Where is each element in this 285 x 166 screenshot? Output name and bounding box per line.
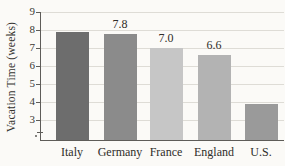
axis-break-dot: [35, 135, 37, 137]
bar-italy: [56, 32, 89, 140]
y-tick-5: [36, 84, 41, 85]
y-tick-3: [36, 120, 41, 121]
bar-value-label-germany: 7.8: [100, 17, 140, 32]
bar-france: [150, 48, 183, 140]
y-tick-label-8: 8: [13, 23, 35, 35]
bar-us: [245, 104, 278, 140]
y-tick-label-7: 7: [13, 41, 35, 53]
y-tick-label-6: 6: [13, 59, 35, 71]
bar-england: [198, 55, 231, 140]
category-label-us: U.S.: [226, 145, 285, 160]
y-tick-label-3: 3: [13, 113, 35, 125]
bar-value-label-england: 6.6: [194, 38, 234, 53]
y-tick-4: [36, 102, 41, 103]
y-tick-9: [36, 12, 41, 13]
y-tick-8: [36, 30, 41, 31]
y-axis-line: [40, 12, 41, 141]
y-tick-label-9: 9: [13, 5, 35, 17]
bar-germany: [104, 34, 137, 140]
gridline-9: [41, 12, 284, 13]
y-tick-7: [36, 48, 41, 49]
bar-value-label-france: 7.0: [146, 31, 186, 46]
y-tick-6: [36, 66, 41, 67]
vacation-time-bar-chart: Vacation Time (weeks) 3456789Italy7.8Ger…: [0, 0, 285, 166]
x-axis-line: [40, 140, 284, 141]
y-tick-label-5: 5: [13, 77, 35, 89]
y-tick-label-4: 4: [13, 95, 35, 107]
axis-break-tick: [37, 132, 43, 133]
